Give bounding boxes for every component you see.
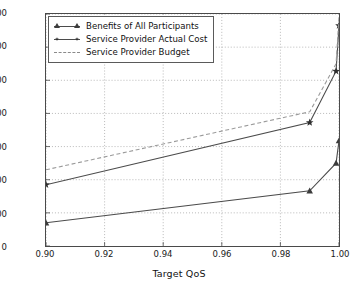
- x-tick-label: 0.94: [154, 250, 173, 259]
- y-tick-label: 400: [0, 176, 7, 185]
- y-tick-label: 800: [0, 109, 7, 118]
- y-tick-label: 1000: [0, 76, 7, 85]
- x-tick-label: 0.92: [95, 250, 114, 259]
- legend-label-actual-cost: Service Provider Actual Cost: [86, 33, 207, 46]
- legend-item-budget: Service Provider Budget: [53, 46, 207, 59]
- y-tick-label: 1200: [0, 42, 7, 51]
- y-tick-label: 1400: [0, 9, 7, 18]
- chart-legend: Benefits of All Participants Service Pro…: [48, 16, 214, 63]
- y-tick-label: 600: [0, 143, 7, 152]
- y-tick-label: 200: [0, 210, 7, 219]
- x-tick-label: 0.98: [272, 250, 291, 259]
- x-tick-label: 0.90: [36, 250, 55, 259]
- x-tick-label: 1.00: [331, 250, 350, 259]
- data-point-marker: [306, 119, 314, 126]
- legend-swatch-budget: [53, 46, 81, 59]
- y-tick-label: 0: [2, 243, 7, 252]
- data-point-marker: [333, 160, 339, 166]
- legend-label-budget: Service Provider Budget: [86, 46, 190, 59]
- data-point-marker: [336, 137, 339, 143]
- x-axis-label: Target QoS: [0, 268, 358, 279]
- data-point-marker: [332, 67, 339, 74]
- chart-figure: 0200400600800100012001400 0.900.920.940.…: [0, 0, 358, 298]
- series-line-0: [46, 141, 339, 223]
- legend-swatch-actual-cost: [53, 33, 81, 46]
- legend-item-benefits: Benefits of All Participants: [53, 20, 207, 33]
- legend-label-benefits: Benefits of All Participants: [86, 20, 199, 33]
- legend-swatch-benefits: [53, 20, 81, 33]
- x-tick-label: 0.96: [213, 250, 232, 259]
- legend-item-actual-cost: Service Provider Actual Cost: [53, 33, 207, 46]
